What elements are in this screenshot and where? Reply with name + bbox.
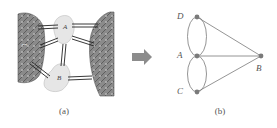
node-B bbox=[259, 54, 264, 59]
caption-b: (b) bbox=[205, 106, 235, 116]
node-D bbox=[195, 15, 200, 20]
right-arrow-icon bbox=[132, 49, 152, 65]
svg-text:B: B bbox=[57, 74, 62, 82]
node-label-A: A bbox=[177, 50, 183, 60]
node-A bbox=[195, 54, 200, 59]
node-label-D: D bbox=[177, 11, 184, 21]
node-C bbox=[195, 90, 200, 95]
figure-canvas: A B ꟷ bbox=[0, 0, 277, 128]
node-label-C: C bbox=[177, 86, 183, 96]
figure: A B ꟷ D A C B (a) (b) bbox=[0, 0, 277, 128]
caption-a: (a) bbox=[49, 106, 79, 116]
svg-text:A: A bbox=[62, 23, 68, 31]
node-label-B: B bbox=[256, 63, 262, 73]
svg-text:ꟷ: ꟷ bbox=[22, 42, 27, 48]
right-domain bbox=[89, 12, 114, 96]
edge-D-A bbox=[188, 17, 207, 56]
edge-A-C bbox=[188, 56, 207, 92]
panel-a-molecule: A B ꟷ bbox=[18, 12, 114, 96]
